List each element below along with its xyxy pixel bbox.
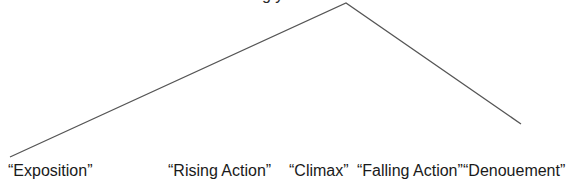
label-denouement: “Denouement” — [463, 161, 565, 181]
arc-lines — [0, 0, 574, 186]
label-rising-action: “Rising Action” — [168, 161, 271, 181]
plot-diagram: g y “Exposition” “Rising Action” “Climax… — [0, 0, 574, 186]
plot-arc-line — [10, 3, 521, 157]
label-falling-action: “Falling Action” — [357, 161, 463, 181]
label-exposition: “Exposition” — [8, 161, 92, 181]
label-climax: “Climax” — [289, 161, 349, 181]
